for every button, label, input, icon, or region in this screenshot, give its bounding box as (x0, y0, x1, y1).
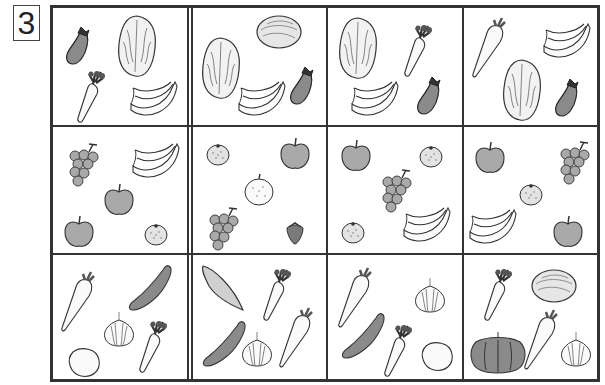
eggplant-icon (293, 66, 317, 110)
cabbage-icon (532, 270, 580, 304)
grid-cell-r3-c3 (328, 258, 460, 378)
banana-icon (133, 144, 181, 184)
potato-icon (422, 342, 454, 372)
potato-icon (69, 348, 101, 378)
daikon-icon (61, 270, 95, 334)
sweet-potato-icon (203, 266, 245, 312)
column-divider (187, 8, 189, 379)
mandarin-orange-icon (145, 224, 169, 248)
eggplant-icon (69, 26, 93, 70)
grapes-icon (67, 148, 101, 190)
napa-cabbage-icon (338, 18, 380, 84)
napa-cabbage-icon (117, 16, 159, 82)
grid-cell-r1-c4 (464, 8, 597, 122)
cabbage-icon (257, 16, 305, 50)
banana-icon (404, 208, 452, 248)
grid-cell-r3-c2 (193, 258, 325, 378)
cucumber-icon (342, 314, 388, 362)
onion-icon (562, 336, 592, 372)
apple-icon (65, 218, 95, 250)
mandarin-orange-icon (420, 146, 444, 170)
carrot-icon (384, 322, 414, 382)
grid-cell-r2-c1 (53, 130, 184, 252)
napa-cabbage-icon (201, 38, 243, 104)
eggplant-icon (420, 76, 444, 120)
carrot-icon (404, 22, 434, 82)
grid-cell-r2-c2 (193, 130, 325, 252)
daikon-icon (279, 306, 313, 370)
banana-icon (544, 24, 592, 64)
pear-icon (245, 178, 275, 208)
carrot-icon (77, 68, 107, 128)
cucumber-icon (129, 266, 175, 314)
carrot-icon (484, 266, 514, 326)
mandarin-orange-icon (520, 184, 544, 208)
daikon-icon (472, 16, 506, 80)
carrot-icon (139, 318, 169, 378)
apple-icon (342, 142, 372, 174)
mandarin-orange-icon (342, 222, 366, 246)
strawberry-icon (287, 224, 305, 246)
banana-icon (470, 210, 518, 250)
onion-icon (243, 336, 273, 372)
onion-icon (105, 316, 135, 352)
onion-icon (416, 282, 446, 318)
grid-cell-r3-c4 (464, 258, 597, 378)
problem-number: 3 (18, 7, 36, 39)
grid-cell-r2-c3 (328, 130, 460, 252)
apple-icon (105, 186, 135, 218)
problem-number-badge: 3 (13, 5, 40, 41)
grid-cell-r2-c4 (464, 130, 597, 252)
banana-icon (131, 82, 179, 122)
grid-cell-r1-c1 (53, 8, 184, 122)
grapes-icon (207, 212, 241, 254)
grid-cell-r1-c3 (328, 8, 460, 122)
row-divider (53, 253, 597, 255)
pumpkin-icon (470, 336, 528, 376)
daikon-icon (524, 308, 558, 372)
apple-icon (281, 140, 311, 172)
banana-icon (352, 82, 400, 122)
grid-cell-r3-c1 (53, 258, 184, 378)
napa-cabbage-icon (502, 60, 544, 126)
apple-icon (554, 218, 584, 250)
banana-icon (239, 82, 287, 122)
apple-icon (476, 144, 506, 176)
mandarin-orange-icon (207, 144, 231, 168)
grapes-icon (558, 146, 592, 188)
grid-cell-r1-c2 (193, 8, 325, 122)
eggplant-icon (558, 78, 582, 122)
